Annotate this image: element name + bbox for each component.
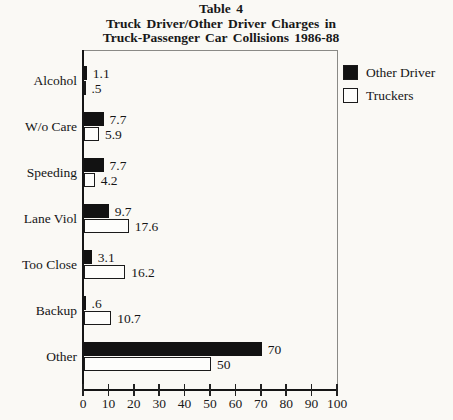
bar-other-driver bbox=[84, 66, 87, 80]
category-label-backup: Backup bbox=[0, 303, 77, 319]
bar-other-driver bbox=[84, 342, 262, 356]
bar-truckers bbox=[84, 81, 86, 95]
category-label-speeding: Speeding bbox=[0, 165, 77, 181]
chart-title: Table 4 Truck Driver/Other Driver Charge… bbox=[0, 2, 442, 46]
value-label: 4.2 bbox=[101, 173, 118, 189]
x-axis-tick bbox=[235, 384, 237, 396]
category-label-w-o-care: W/o Care bbox=[0, 119, 77, 135]
x-axis-tick bbox=[133, 384, 135, 396]
bar-other-driver bbox=[84, 112, 104, 126]
value-label: 70 bbox=[268, 342, 282, 358]
value-label: 9.7 bbox=[115, 204, 132, 220]
value-label: 16.2 bbox=[131, 265, 155, 281]
bar-truckers bbox=[84, 357, 211, 371]
chart-title-line2: Truck Driver/Other Driver Charges in bbox=[0, 17, 442, 32]
bar-other-driver bbox=[84, 250, 92, 264]
plot-frame-top bbox=[83, 50, 338, 51]
x-axis-tick-label: 100 bbox=[320, 396, 354, 412]
category-label-other: Other bbox=[0, 349, 77, 365]
category-label-lane-viol: Lane Viol bbox=[0, 211, 77, 227]
x-axis-tick bbox=[311, 384, 313, 396]
value-label: 3.1 bbox=[98, 250, 115, 266]
chart-title-line1: Table 4 bbox=[0, 2, 442, 17]
bar-truckers bbox=[84, 127, 99, 141]
x-axis-tick bbox=[82, 384, 84, 396]
chart-title-line3: Truck-Passenger Car Collisions 1986-88 bbox=[0, 31, 442, 46]
value-label: 1.1 bbox=[93, 66, 110, 82]
value-label: .6 bbox=[92, 296, 102, 312]
scanned-bar-chart-page: Table 4 Truck Driver/Other Driver Charge… bbox=[0, 0, 453, 420]
value-label: 7.7 bbox=[110, 158, 127, 174]
bar-truckers bbox=[84, 219, 129, 233]
bar-truckers bbox=[84, 173, 95, 187]
legend-label-other-driver: Other Driver bbox=[366, 65, 435, 81]
bar-other-driver bbox=[84, 296, 86, 310]
x-axis-tick bbox=[184, 384, 186, 396]
bar-other-driver bbox=[84, 158, 104, 172]
bar-other-driver bbox=[84, 204, 109, 218]
value-label: .5 bbox=[91, 81, 101, 97]
x-axis-tick bbox=[158, 384, 160, 396]
value-label: 50 bbox=[217, 357, 231, 373]
plot-frame-right bbox=[337, 50, 338, 390]
value-label: 10.7 bbox=[117, 311, 141, 327]
bar-truckers bbox=[84, 265, 125, 279]
legend-swatch-truckers bbox=[343, 88, 358, 103]
x-axis-tick bbox=[108, 384, 110, 396]
bar-truckers bbox=[84, 311, 111, 325]
category-label-alcohol: Alcohol bbox=[0, 73, 77, 89]
x-axis-tick bbox=[336, 384, 338, 396]
legend-label-truckers: Truckers bbox=[366, 88, 414, 104]
x-axis-tick bbox=[285, 384, 287, 396]
category-label-too-close: Too Close bbox=[0, 257, 77, 273]
value-label: 17.6 bbox=[135, 219, 159, 235]
x-axis-tick bbox=[209, 384, 211, 396]
value-label: 5.9 bbox=[105, 127, 122, 143]
x-axis-tick bbox=[260, 384, 262, 396]
value-label: 7.7 bbox=[110, 112, 127, 128]
legend-swatch-other-driver bbox=[343, 65, 358, 80]
